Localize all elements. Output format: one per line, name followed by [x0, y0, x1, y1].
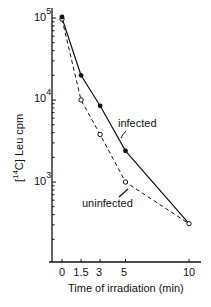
x-tick-5: 5	[121, 266, 127, 278]
x-tick-10: 10	[183, 266, 195, 278]
x-tick-3: 3	[96, 266, 102, 278]
x-axis-title: Time of irradiation (min)	[68, 282, 184, 294]
annotation-uninfected: uninfected	[82, 197, 133, 209]
y-axis-title: [14C] Leu cpm	[11, 114, 25, 182]
annotation-infected: infected	[118, 117, 157, 129]
x-tick-1.5: 1.5	[73, 266, 88, 278]
y-tick-1e4: 104	[34, 89, 51, 104]
x-tick-0: 0	[59, 266, 65, 278]
y-tick-1e3: 103	[34, 172, 51, 187]
infected-pointer	[121, 131, 126, 138]
chart-plot-area	[0, 0, 211, 307]
infected-markers	[60, 15, 128, 154]
uninfected-pointer	[119, 189, 128, 197]
y-tick-1e5: 105	[34, 8, 51, 23]
